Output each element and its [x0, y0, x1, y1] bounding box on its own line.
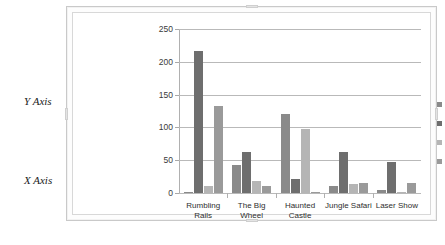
bar-girls[interactable]: [214, 106, 223, 193]
legend-item-girls[interactable]: Girls: [437, 156, 445, 166]
bar-group: [179, 29, 227, 193]
legend-swatch-icon: [437, 102, 442, 107]
bar-men[interactable]: [281, 114, 290, 193]
legend-item-women[interactable]: Women: [437, 118, 445, 128]
plot-area: 050100150200250: [179, 29, 421, 193]
category-label: Jungle Safari: [324, 201, 372, 220]
bar-boys[interactable]: [252, 181, 261, 193]
y-tick-mark: [175, 193, 179, 194]
y-tick-label: 200: [159, 57, 173, 67]
bar-chart: 050100150200250 Rumbling RailsThe Big Wh…: [141, 21, 445, 220]
bar-girls[interactable]: [262, 186, 271, 193]
category-label: The Big Wheel: [227, 201, 275, 220]
screenshot-root: Y Axis X Axis 050100150200250 Rumbling R…: [0, 0, 445, 245]
bar-groups: [179, 29, 421, 193]
bar-boys[interactable]: [397, 192, 406, 193]
bar-men[interactable]: [232, 165, 241, 193]
y-tick-label: 50: [164, 155, 173, 165]
bar-women[interactable]: [339, 152, 348, 193]
y-tick-label: 250: [159, 24, 173, 34]
bar-men[interactable]: [184, 192, 193, 193]
legend-swatch-icon: [437, 140, 442, 145]
bar-girls[interactable]: [407, 183, 416, 193]
bar-group: [276, 29, 324, 193]
chart-object-frame[interactable]: 050100150200250 Rumbling RailsThe Big Wh…: [66, 6, 437, 221]
bar-men[interactable]: [329, 186, 338, 193]
category-label: Rumbling Rails: [179, 201, 227, 220]
bar-women[interactable]: [291, 179, 300, 193]
x-axis-annotation-label: X Axis: [24, 174, 52, 186]
y-tick-label: 100: [159, 122, 173, 132]
legend-item-boys[interactable]: Boys: [437, 137, 445, 147]
bar-boys[interactable]: [204, 186, 213, 193]
y-axis-annotation-label: Y Axis: [24, 95, 52, 107]
bar-group: [373, 29, 421, 193]
bar-boys[interactable]: [301, 129, 310, 193]
bar-women[interactable]: [242, 152, 251, 193]
resize-handle-left[interactable]: [65, 108, 68, 120]
category-label: Laser Show: [373, 201, 421, 220]
bar-women[interactable]: [387, 162, 396, 193]
bar-group: [227, 29, 275, 193]
bar-boys[interactable]: [349, 184, 358, 193]
bar-men[interactable]: [377, 190, 386, 193]
legend-swatch-icon: [437, 159, 442, 164]
bar-women[interactable]: [194, 51, 203, 193]
y-tick-label: 150: [159, 90, 173, 100]
resize-handle-top[interactable]: [246, 5, 258, 8]
bar-girls[interactable]: [311, 192, 320, 193]
bar-group: [324, 29, 372, 193]
legend-swatch-icon: [437, 121, 442, 126]
chart-legend: MenWomenBoysGirls: [437, 99, 445, 166]
bar-girls[interactable]: [359, 183, 368, 193]
category-axis-labels: Rumbling RailsThe Big WheelHaunted Castl…: [179, 201, 421, 220]
legend-item-men[interactable]: Men: [437, 99, 445, 109]
category-label: Haunted Castle: [276, 201, 324, 220]
y-tick-label: 0: [168, 188, 173, 198]
gridline: [179, 193, 421, 194]
